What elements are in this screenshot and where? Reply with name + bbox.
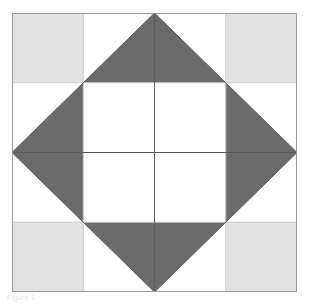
figure-caption: Figure 1 [7,293,147,303]
quilt-block-frame [12,13,297,292]
quilt-block-graphic [12,13,297,292]
figure-canvas: Figure 1 [0,0,309,304]
bottom-left-corner-square [12,222,83,292]
bottom-right-corner-square [226,222,297,292]
top-right-corner-square [226,13,297,83]
top-left-corner-square [12,13,83,83]
